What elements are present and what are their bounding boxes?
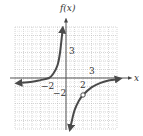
x-tick-label-2: 2 xyxy=(80,80,86,90)
x-axis-label: x xyxy=(134,73,139,83)
y-tick-label-3: 3 xyxy=(69,46,75,56)
open-point-marker xyxy=(81,93,85,97)
y-axis-label: f(x) xyxy=(59,3,76,13)
y-tick-label-neg2: −2 xyxy=(53,88,66,98)
x-tick-label-3: 3 xyxy=(89,66,95,76)
function-graph: f(x) x −2 2 3 3 −2 xyxy=(0,0,143,136)
